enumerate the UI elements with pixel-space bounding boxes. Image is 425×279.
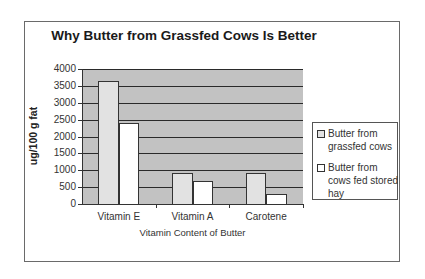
legend-label: Butter from cows fed stored hay [328,161,400,200]
y-tick-mark [78,187,82,188]
legend-item-grassfed: Butter from grassfed cows [317,127,400,153]
y-tick-mark [78,204,82,205]
y-tick-mark [78,86,82,87]
y-tick-mark [78,120,82,121]
bar-vitamin-e-series-0 [98,81,119,205]
legend-swatch-icon [317,164,325,172]
legend-label: Butter from grassfed cows [328,127,400,153]
bar-vitamin-a-series-1 [193,181,214,205]
x-tick-label: Vitamin A [156,211,230,222]
x-tick-mark [156,204,157,208]
x-tick-mark [303,204,304,208]
y-tick-mark [78,69,82,70]
y-tick-label: 1500 [36,147,76,158]
x-tick-mark [229,204,230,208]
y-axis-label: ug/100 g fat [27,81,39,191]
y-tick-label: 2500 [36,114,76,125]
x-axis-label: Vitamin Content of Butter [82,227,303,238]
y-tick-mark [78,170,82,171]
gridline [82,69,303,70]
y-tick-mark [78,103,82,104]
y-tick-mark [78,137,82,138]
bar-carotene-series-1 [266,194,287,205]
legend-item-stored-hay: Butter from cows fed stored hay [317,161,400,200]
x-tick-label: Vitamin E [82,211,156,222]
bar-vitamin-e-series-1 [119,123,140,205]
legend: Butter from grassfed cows Butter from co… [312,122,398,200]
chart-title: Why Butter from Grassfed Cows Is Better [24,28,344,43]
y-tick-label: 0 [36,198,76,209]
y-tick-mark [78,153,82,154]
y-axis [82,69,83,205]
y-tick-label: 1000 [36,164,76,175]
y-tick-label: 4000 [36,63,76,74]
x-tick-label: Carotene [229,211,303,222]
bar-vitamin-a-series-0 [172,173,193,205]
y-tick-label: 3000 [36,97,76,108]
bar-carotene-series-0 [246,173,267,205]
y-tick-label: 3500 [36,80,76,91]
y-tick-label: 500 [36,181,76,192]
legend-swatch-icon [317,130,325,138]
y-tick-label: 2000 [36,131,76,142]
